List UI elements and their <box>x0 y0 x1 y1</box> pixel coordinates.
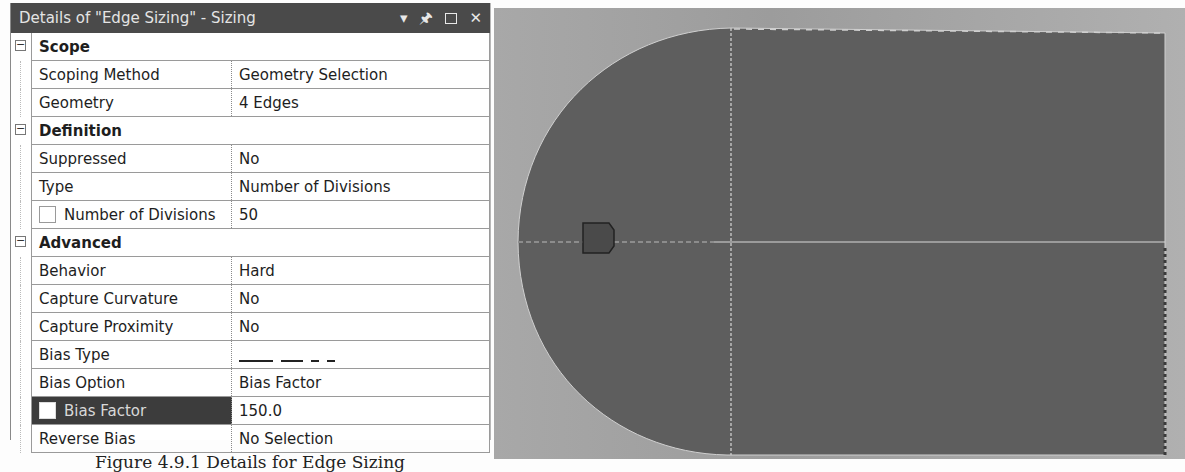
category-advanced[interactable]: − Advanced <box>11 229 490 257</box>
property-row-type[interactable]: Type Number of Divisions <box>11 173 490 201</box>
property-row-behavior[interactable]: Behavior Hard <box>11 257 490 285</box>
property-label: Geometry <box>32 89 232 116</box>
property-row-capture-proximity[interactable]: Capture Proximity No <box>11 313 490 341</box>
property-row-bias-option[interactable]: Bias Option Bias Factor <box>11 369 490 397</box>
parameter-checkbox[interactable] <box>39 206 56 223</box>
category-scope[interactable]: − Scope <box>11 33 490 61</box>
graphics-viewport[interactable] <box>494 8 1185 459</box>
collapse-icon[interactable]: − <box>15 236 26 247</box>
details-panel: Details of "Edge Sizing" - Sizing ▾ 🖈︎ ✕… <box>10 3 491 440</box>
property-value[interactable]: No Selection <box>232 425 489 452</box>
property-row-geometry[interactable]: Geometry 4 Edges <box>11 89 490 117</box>
property-row-bias-factor[interactable]: Bias Factor 150.0 <box>11 397 490 425</box>
category-label: Advanced <box>32 229 489 256</box>
property-value-input[interactable]: 150.0 <box>232 397 489 424</box>
property-label: Bias Factor <box>64 402 146 420</box>
figure-caption: Figure 4.9.1 Details for Edge Sizing <box>95 452 405 472</box>
parameter-checkbox[interactable] <box>39 402 56 419</box>
edge-marker-icon <box>583 223 614 253</box>
property-label-with-checkbox: Number of Divisions <box>32 201 232 228</box>
properties-grid: − Scope Scoping Method Geometry Selectio… <box>11 33 490 453</box>
property-value[interactable]: 50 <box>232 201 489 228</box>
property-label: Bias Type <box>32 341 232 368</box>
maximize-icon[interactable] <box>445 13 457 24</box>
bias-type-icon[interactable] <box>232 341 489 368</box>
geometry-view[interactable] <box>494 8 1185 459</box>
property-value[interactable]: Bias Factor <box>232 369 489 396</box>
category-label: Definition <box>32 117 489 144</box>
property-value[interactable]: 4 Edges <box>232 89 489 116</box>
dropdown-arrow-icon[interactable]: ▾ <box>400 11 408 26</box>
category-definition[interactable]: − Definition <box>11 117 490 145</box>
property-value[interactable]: No <box>232 313 489 340</box>
collapse-icon[interactable]: − <box>15 40 26 51</box>
property-value[interactable]: Number of Divisions <box>232 173 489 200</box>
property-label: Behavior <box>32 257 232 284</box>
property-value[interactable]: Hard <box>232 257 489 284</box>
property-label: Number of Divisions <box>64 206 216 224</box>
collapse-icon[interactable]: − <box>15 124 26 135</box>
property-row-reverse-bias[interactable]: Reverse Bias No Selection <box>11 425 490 453</box>
property-label: Scoping Method <box>32 61 232 88</box>
property-label: Capture Proximity <box>32 313 232 340</box>
details-title: Details of "Edge Sizing" - Sizing <box>19 9 388 27</box>
property-value[interactable]: No <box>232 285 489 312</box>
property-row-capture-curvature[interactable]: Capture Curvature No <box>11 285 490 313</box>
property-row-scoping-method[interactable]: Scoping Method Geometry Selection <box>11 61 490 89</box>
property-label: Suppressed <box>32 145 232 172</box>
property-row-number-of-divisions[interactable]: Number of Divisions 50 <box>11 201 490 229</box>
property-label: Bias Option <box>32 369 232 396</box>
details-title-bar: Details of "Edge Sizing" - Sizing ▾ 🖈︎ ✕ <box>11 3 490 33</box>
property-label: Type <box>32 173 232 200</box>
property-label: Reverse Bias <box>32 425 232 452</box>
property-label: Capture Curvature <box>32 285 232 312</box>
property-label-with-checkbox: Bias Factor <box>32 397 232 424</box>
property-value[interactable]: No <box>232 145 489 172</box>
property-row-suppressed[interactable]: Suppressed No <box>11 145 490 173</box>
pin-icon[interactable]: 🖈︎ <box>419 11 433 26</box>
property-value[interactable]: Geometry Selection <box>232 61 489 88</box>
close-icon[interactable]: ✕ <box>469 11 482 26</box>
property-row-bias-type[interactable]: Bias Type <box>11 341 490 369</box>
category-label: Scope <box>32 33 489 60</box>
